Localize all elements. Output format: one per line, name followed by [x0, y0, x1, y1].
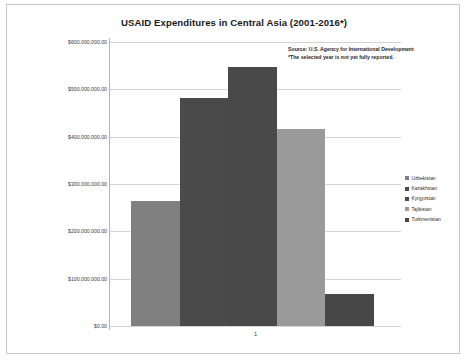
chart-legend: UzbekistanKazakhstanKyrgyzstanTajikistan… — [405, 173, 461, 225]
legend-item-tajikistan[interactable]: Tajikistan — [405, 204, 461, 214]
legend-item-turkmenistan[interactable]: Turkmenistan — [405, 215, 461, 225]
legend-swatch-icon — [405, 218, 409, 222]
legend-label: Uzbekistan — [411, 176, 435, 181]
legend-label: Kyrgyzstan — [411, 196, 435, 201]
y-axis-tick-label: $100,000,000.00 — [15, 276, 107, 282]
y-axis-tick-label: $0.00 — [15, 323, 107, 329]
bar-kazakhstan[interactable] — [180, 98, 229, 326]
bar-tajikistan[interactable] — [277, 129, 326, 326]
legend-swatch-icon — [405, 176, 409, 180]
y-axis-tick-label: $200,000,000.00 — [15, 228, 107, 234]
y-axis-tick-label: $400,000,000.00 — [15, 134, 107, 140]
y-axis-tick-label: $600,000,000.00 — [15, 39, 107, 45]
y-axis-tick-labels: $600,000,000.00$500,000,000.00$400,000,0… — [11, 5, 107, 360]
legend-swatch-icon — [405, 187, 409, 191]
legend-label: Tajikistan — [411, 207, 431, 212]
legend-item-uzbekistan[interactable]: Uzbekistan — [405, 173, 461, 183]
x-axis-category-label: 1 — [110, 331, 401, 337]
bar-uzbekistan[interactable] — [131, 201, 180, 326]
legend-item-kyrgyzstan[interactable]: Kyrgyzstan — [405, 194, 461, 204]
legend-label: Kazakhstan — [411, 186, 437, 191]
legend-label: Turkmenistan — [411, 217, 440, 222]
gridline — [110, 42, 401, 43]
gridline — [110, 326, 401, 327]
bar-turkmenistan[interactable] — [325, 294, 374, 326]
bar-kyrgyzstan[interactable] — [228, 67, 277, 326]
legend-swatch-icon — [405, 207, 409, 211]
y-axis-tick-label: $500,000,000.00 — [15, 86, 107, 92]
legend-swatch-icon — [405, 197, 409, 201]
legend-item-kazakhstan[interactable]: Kazakhstan — [405, 183, 461, 193]
y-axis-tick-label: $300,000,000.00 — [15, 181, 107, 187]
plot-area — [110, 42, 401, 326]
chart-page-frame: USAID Expenditures in Central Asia (2001… — [6, 4, 460, 354]
